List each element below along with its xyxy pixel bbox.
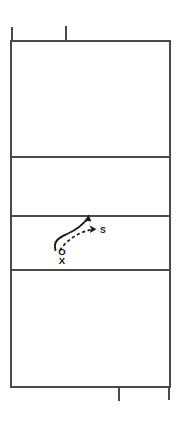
setter-label: S (100, 225, 106, 235)
volleyball-court-play-diagram: O X S (0, 0, 180, 421)
court-surface (11, 41, 170, 387)
player-marker-x: X (59, 255, 66, 266)
